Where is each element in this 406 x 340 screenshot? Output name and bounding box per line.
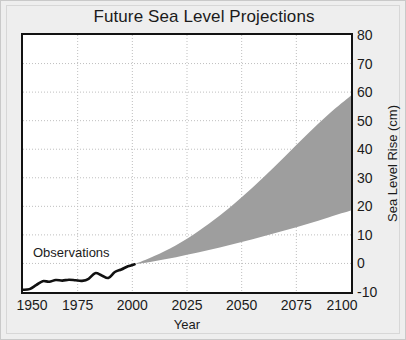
x-axis-tick-2025: 2025 — [171, 298, 202, 312]
x-axis-tick-2050: 2050 — [226, 298, 257, 312]
y-axis-tick-40: 40 — [357, 142, 373, 156]
y-axis-tick-80: 80 — [357, 28, 373, 42]
x-axis-tick-1950: 1950 — [16, 298, 47, 312]
y-axis-tick-20: 20 — [357, 199, 373, 213]
y-axis-tick-30: 30 — [357, 171, 373, 185]
x-axis-tick-2075: 2075 — [281, 298, 312, 312]
x-axis-tick-2100: 2100 — [326, 298, 357, 312]
chart-figure: Future Sea Level Projections -1001020304… — [0, 0, 406, 340]
observations-annotation: Observations — [33, 245, 110, 260]
observations-line — [23, 264, 135, 289]
y-axis-tick-60: 60 — [357, 85, 373, 99]
y-axis-tick-0: 0 — [357, 256, 365, 270]
y-axis-tick-70: 70 — [357, 57, 373, 71]
y-axis-title-text: Sea Level Rise (cm) — [386, 105, 401, 222]
y-axis-tick-10: 10 — [357, 228, 373, 242]
x-axis-title: Year — [21, 317, 353, 332]
x-axis-tick-1975: 1975 — [62, 298, 93, 312]
y-axis-tick-50: 50 — [357, 114, 373, 128]
y-axis-tick--10: -10 — [357, 285, 377, 299]
y-axis-title: Sea Level Rise (cm) — [383, 33, 403, 294]
x-axis-tick-2000: 2000 — [117, 298, 148, 312]
chart-title: Future Sea Level Projections — [1, 7, 406, 27]
